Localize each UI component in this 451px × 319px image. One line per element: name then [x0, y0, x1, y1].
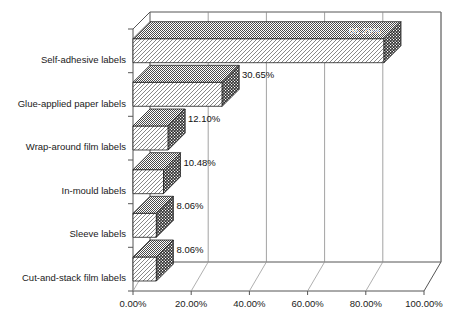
bar-cut-and-stack-film-labels: [133, 240, 173, 281]
category-label-2: Wrap-around film labels: [26, 141, 126, 152]
xtick-label-3: 60.00%: [291, 298, 324, 309]
category-label-5: Cut-and-stack film labels: [22, 272, 126, 283]
bar-wrap-around-film-labels: [133, 109, 185, 150]
category-label-4: Sleeve labels: [69, 228, 126, 239]
value-label-4: 8.06%: [177, 200, 204, 211]
floor-line-40: [249, 262, 266, 291]
value-label-2: 12.10%: [188, 113, 221, 124]
depth-edge-bottomright: [424, 262, 441, 291]
value-label-0: 86.29%: [349, 25, 382, 36]
value-label-1: 30.65%: [242, 69, 275, 80]
category-label-1: Glue-applied paper labels: [18, 98, 127, 109]
value-label-5: 8.06%: [177, 244, 204, 255]
chart-canvas: Self-adhesive labels Glue-applied paper …: [0, 0, 451, 319]
bar-sleeve-labels: [133, 196, 173, 237]
xtick-label-4: 80.00%: [350, 298, 383, 309]
bar-chart: Self-adhesive labels Glue-applied paper …: [0, 0, 451, 319]
xtick-label-5: 100.00%: [405, 298, 443, 309]
x-tick-labels: 0.00% 20.00% 40.00% 60.00% 80.00% 100.00…: [120, 298, 444, 309]
xtick-label-1: 20.00%: [175, 298, 208, 309]
bar-glue-applied-paper-labels: [133, 65, 239, 106]
category-label-0: Self-adhesive labels: [41, 54, 126, 65]
xtick-label-0: 0.00%: [120, 298, 147, 309]
bar-in-mould-labels: [133, 153, 181, 194]
value-label-3: 10.48%: [184, 157, 217, 168]
floor-line-80: [366, 262, 383, 291]
floor-line-60: [308, 262, 325, 291]
category-labels: Self-adhesive labels Glue-applied paper …: [18, 54, 127, 283]
xtick-label-2: 40.00%: [233, 298, 266, 309]
floor-line-20: [191, 262, 208, 291]
category-label-3: In-mould labels: [62, 185, 127, 196]
